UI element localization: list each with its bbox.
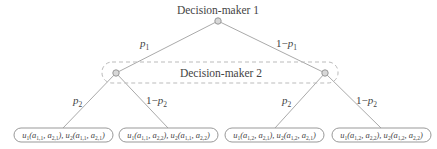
dm2-node-left (113, 70, 119, 76)
game-tree-diagram: Decision-maker 1 Decision-maker 2 p1 1−p… (0, 0, 437, 149)
information-set-label: Decision-maker 2 (180, 67, 262, 79)
edge-root-right (218, 21, 325, 73)
edge-left-left (63, 73, 116, 128)
branch-label-p1: p1 (139, 37, 150, 52)
leaf-payoff-text: u1(a1,1, a2,1), u2(a1,1, a2,1) (22, 130, 105, 141)
leaf-node: u1(a1,1, a2,2), u2(a1,1, a2,2) (119, 128, 218, 142)
branch-label-1-minus-p2-left: 1−p2 (146, 94, 167, 109)
leaf-payoff-text: u1(a1,1, a2,2), u2(a1,1, a2,2) (127, 130, 210, 141)
leaf-node: u1(a1,2, a2,2), u2(a1,2, a2,2) (332, 128, 431, 142)
leaf-node: u1(a1,2, a2,1), u2(a1,2, a2,1) (225, 128, 324, 142)
branch-label-p2-right: p2 (281, 94, 292, 109)
dm2-node-right (322, 70, 328, 76)
branch-label-p2-left: p2 (72, 94, 83, 109)
edge-root-left (116, 21, 218, 73)
leaf-payoff-text: u1(a1,2, a2,2), u2(a1,2, a2,2) (340, 130, 423, 141)
leaf-node: u1(a1,1, a2,1), u2(a1,1, a2,1) (14, 128, 113, 142)
root-node (215, 18, 221, 24)
root-label: Decision-maker 1 (177, 4, 259, 16)
branch-label-1-minus-p1: 1−p1 (276, 37, 297, 52)
leaf-payoff-text: u1(a1,2, a2,1), u2(a1,2, a2,1) (233, 130, 316, 141)
